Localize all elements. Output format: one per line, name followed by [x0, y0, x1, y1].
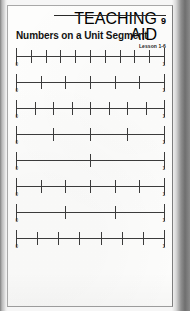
number-line-tick: [79, 232, 80, 245]
number-line-tick: [120, 50, 121, 63]
number-line-tick: [90, 76, 91, 89]
number-line-tick: [60, 50, 61, 63]
number-line-tick: [65, 76, 66, 89]
number-line-end-label: 1: [163, 63, 166, 68]
number-line-tick: [90, 50, 91, 63]
header-rule: [54, 15, 166, 16]
number-line-tick: [31, 50, 32, 63]
number-line-start-label: 0: [16, 115, 19, 120]
number-line-halves: 01: [16, 151, 166, 177]
number-line-start-label: 0: [16, 89, 19, 94]
number-line-tenths: 01: [16, 47, 166, 73]
number-line-list: 0101010101010101: [16, 47, 166, 255]
number-line-start-label: 0: [16, 167, 19, 172]
scanned-page: TEACHING AID 9 Lesson 1-6 Numbers on a U…: [0, 0, 190, 311]
number-line-tick: [143, 232, 144, 245]
number-line-start-label: 0: [16, 141, 19, 146]
number-line-thirds: 01: [16, 203, 166, 229]
number-line-sixths-2: 01: [16, 177, 166, 203]
number-line-tick: [115, 76, 116, 89]
number-line-tick: [72, 102, 73, 115]
number-line-end-label: 1: [163, 115, 166, 120]
worksheet-paper: TEACHING AID 9 Lesson 1-6 Numbers on a U…: [7, 5, 173, 307]
number-line-tick: [75, 50, 76, 63]
number-line-axis: [16, 212, 164, 213]
number-line-end-label: 1: [163, 89, 166, 94]
page-title: Numbers on a Unit Segment: [16, 30, 147, 41]
number-line-end-label: 1: [163, 141, 166, 146]
worksheet-header: TEACHING AID 9 Lesson 1-6: [54, 9, 166, 49]
number-line-end-label: 1: [163, 245, 166, 250]
number-line-tick: [90, 128, 91, 141]
number-line-end-label: 1: [163, 219, 166, 224]
number-line-tick: [139, 180, 140, 193]
number-line-end-label: 1: [163, 167, 166, 172]
number-line-tick: [127, 102, 128, 115]
number-line-tick: [115, 206, 116, 219]
number-line-axis: [16, 238, 164, 239]
number-line-tick: [53, 128, 54, 141]
number-line-start-label: 0: [16, 219, 19, 224]
number-line-eighths: 01: [16, 99, 166, 125]
number-line-tick: [65, 180, 66, 193]
number-line-tick: [134, 50, 135, 63]
number-line-tick: [41, 180, 42, 193]
number-line-tick: [41, 76, 42, 89]
number-line-tick: [46, 50, 47, 63]
number-line-tick: [139, 76, 140, 89]
number-line-start-label: 0: [16, 63, 19, 68]
number-line-tick: [149, 50, 150, 63]
number-line-end-label: 1: [163, 193, 166, 198]
scan-bottom-shade: [8, 272, 172, 306]
number-line-sevenths: 01: [16, 229, 166, 255]
number-line-tick: [101, 232, 102, 245]
teaching-aid-number: 9: [161, 17, 166, 26]
number-line-tick: [146, 102, 147, 115]
number-line-tick: [122, 232, 123, 245]
number-line-tick: [37, 232, 38, 245]
number-line-tick: [90, 102, 91, 115]
number-line-tick: [35, 102, 36, 115]
number-line-tick: [115, 180, 116, 193]
number-line-fourths: 01: [16, 125, 166, 151]
number-line-tick: [127, 128, 128, 141]
number-line-tick: [105, 50, 106, 63]
number-line-tick: [58, 232, 59, 245]
number-line-tick: [109, 102, 110, 115]
number-line-tick: [90, 180, 91, 193]
number-line-tick: [90, 154, 91, 167]
number-line-start-label: 0: [16, 245, 19, 250]
number-line-tick: [53, 102, 54, 115]
number-line-sixths: 01: [16, 73, 166, 99]
number-line-tick: [65, 206, 66, 219]
number-line-start-label: 0: [16, 193, 19, 198]
